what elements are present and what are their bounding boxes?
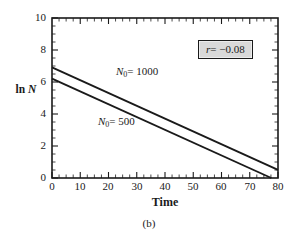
y-tick-label-10: 10: [24, 12, 46, 23]
y-tick-label-8: 8: [24, 44, 46, 55]
y-tick-label-4: 4: [24, 108, 46, 119]
series-label-value: = 1000: [127, 65, 158, 77]
x-tick-label-0: 0: [39, 181, 65, 192]
y-axis-title-prefix: ln: [16, 83, 28, 95]
growth-rate-legend-box: r= −0.08: [198, 40, 253, 59]
figure-caption: (b): [128, 218, 170, 229]
x-tick-label-50: 50: [180, 181, 206, 192]
figure-panel-b: 10 8 6 4 2 0 0 10 20 30 40 50 60 70 80 l…: [0, 0, 297, 238]
y-tick-label-2: 2: [24, 140, 46, 151]
x-tick-label-70: 70: [237, 181, 263, 192]
x-tick-label-20: 20: [95, 181, 121, 192]
series-label-n0-500: N0= 500: [98, 116, 135, 129]
x-axis-title: Time: [135, 196, 195, 208]
y-axis-title: ln N: [6, 84, 46, 96]
x-tick-label-60: 60: [208, 181, 234, 192]
x-tick-label-80: 80: [265, 181, 291, 192]
x-tick-label-40: 40: [152, 181, 178, 192]
legend-value: = −0.08: [210, 43, 244, 55]
x-tick-label-30: 30: [124, 181, 150, 192]
series-label-value: = 500: [109, 115, 134, 127]
series-label-n0-1000: N0= 1000: [116, 66, 158, 79]
y-axis-title-variable: N: [28, 83, 36, 95]
x-tick-label-10: 10: [67, 181, 93, 192]
